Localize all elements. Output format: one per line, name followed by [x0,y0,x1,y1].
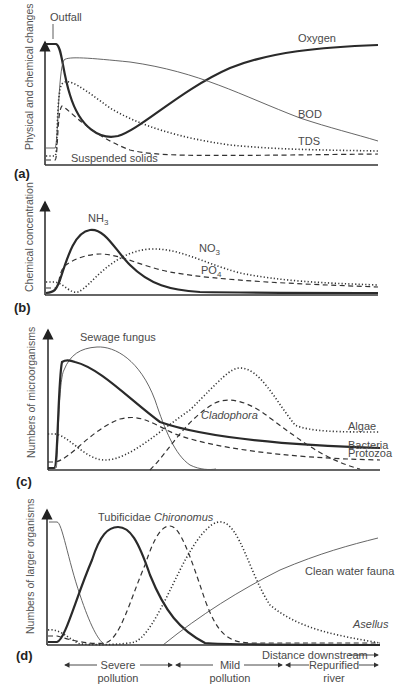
panel-label-a: (a) [14,166,30,181]
zone-severe-pollution: Severe pollution [65,659,172,684]
curve-protozoa [48,417,380,462]
svg-text:pollution: pollution [98,672,139,684]
curve-tubificidae [48,527,380,645]
panel-d: Numbers of larger organisms (d) Tubifici… [16,499,395,684]
label-sewage-fungus: Sewage fungus [80,331,156,343]
label-cladophora: Cladophora [201,409,258,421]
curve-oxygen [46,44,378,137]
label-protozoa: Protozoa [348,447,393,459]
svg-text:river: river [323,672,345,684]
label-tubificidae: Tubificidae [98,511,151,523]
svg-text:pollution: pollution [210,672,251,684]
svg-text:Repurified: Repurified [309,659,359,671]
label-tds: TDS [298,135,320,147]
panel-label-d: (d) [16,648,33,663]
label-no3: NO3 [199,242,221,257]
zone-repurified-river: Repurified river [286,659,378,684]
panel-c: Numbers of microorganisms (c) Sewage fun… [16,327,393,489]
label-algae: Algae [348,420,376,432]
curve-bod [46,58,378,148]
curve-asellus [48,522,380,645]
label-nh3: NH3 [88,212,109,227]
svg-text:Severe: Severe [101,659,136,671]
label-chironomus: Chironomus [154,511,214,523]
svg-text:Mild: Mild [220,659,240,671]
zone-mild-pollution: Mild pollution [176,659,282,684]
ylabel-d: Numbers of larger organisms [24,499,36,634]
panel-label-b: (b) [14,300,31,315]
curve-clean-water-fauna [163,538,378,645]
curve-tds [46,82,378,156]
panel-label-c: (c) [16,474,32,489]
ylabel-a: Physical and chemical changes [23,4,35,151]
panel-b: Chemical concentration (b) NH3 NO3 PO4 [14,182,378,315]
ylabel-b: Chemical concentration [23,182,35,292]
ylabel-c: Numbers of microorganisms [25,327,37,458]
label-asellus: Asellus [352,618,389,630]
curve-clean-water-fauna-upstream [49,522,104,644]
label-bod: BOD [298,108,322,120]
label-clean-water-fauna: Clean water fauna [305,565,395,577]
label-suspended-solids: Suspended solids [71,152,158,164]
outfall-label: Outfall [50,11,82,23]
pollution-diagram: Outfall Physical and chemical changes (a… [0,0,397,695]
panel-a: Outfall Physical and chemical changes (a… [14,4,378,182]
label-oxygen: Oxygen [298,32,336,44]
